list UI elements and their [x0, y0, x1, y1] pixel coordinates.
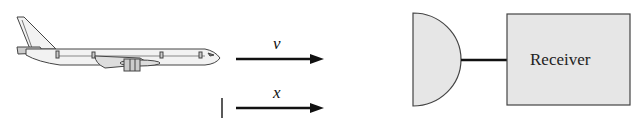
velocity-label: v — [273, 34, 281, 54]
airplane-icon — [17, 17, 220, 71]
position-label: x — [273, 83, 281, 103]
velocity-arrow — [236, 54, 324, 64]
position-arrow — [236, 103, 324, 113]
antenna-icon — [413, 13, 461, 106]
receiver-label: Receiver — [530, 50, 590, 70]
